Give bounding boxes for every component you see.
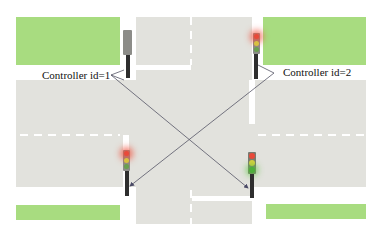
controller-connector-lines xyxy=(0,0,381,236)
controller-1-label: Controller id=1 xyxy=(42,69,110,81)
controller-2-label: Controller id=2 xyxy=(283,66,351,78)
